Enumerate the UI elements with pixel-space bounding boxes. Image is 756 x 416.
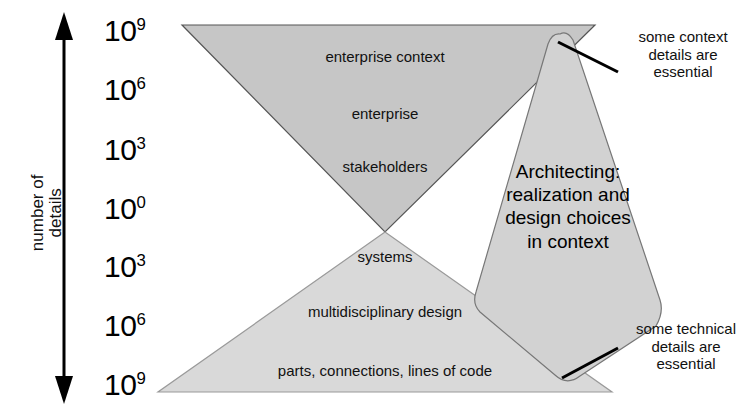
context-triangle-label-0: enterprise context <box>325 48 444 65</box>
diagram-canvas: number of details 109 106 103 100 103 10… <box>0 0 756 416</box>
axis-caption: number of details <box>29 133 65 293</box>
context-triangle-label-1: enterprise <box>352 105 419 122</box>
technical-triangle-label-0: systems <box>357 248 412 265</box>
axis-tick-1: 106 <box>104 73 145 107</box>
context-callout-text: some context details are essential <box>620 28 746 81</box>
axis-tick-4: 103 <box>104 250 145 284</box>
axis-tick-3: 100 <box>104 192 145 226</box>
technical-callout-text: some technical details are essential <box>620 320 752 373</box>
architecting-diamond-text: Architecting: realization and design cho… <box>505 160 631 253</box>
axis-tick-2: 103 <box>104 133 145 167</box>
axis-tick-6: 109 <box>104 368 145 402</box>
axis-tick-0: 109 <box>104 14 145 48</box>
context-triangle-label-2: stakeholders <box>342 158 427 175</box>
technical-triangle-label-2: parts, connections, lines of code <box>278 362 492 379</box>
axis-tick-5: 106 <box>104 309 145 343</box>
technical-triangle-label-1: multidisciplinary design <box>308 303 462 320</box>
